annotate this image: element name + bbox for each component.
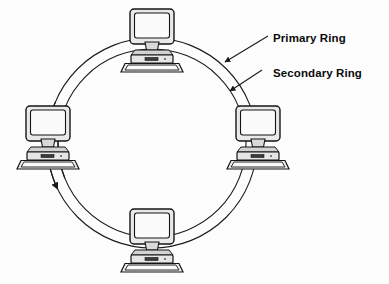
- leader-line-primary-ring: [225, 36, 268, 62]
- leader-line-secondary-ring: [230, 70, 262, 91]
- leader-group: [225, 36, 268, 91]
- primary-ring-label: Primary Ring: [273, 32, 346, 44]
- diagram-canvas: Primary Ring Secondary Ring: [0, 0, 389, 284]
- computer-icon: [227, 106, 289, 169]
- node-top[interactable]: [121, 9, 183, 72]
- computer-icon: [121, 209, 183, 272]
- node-right[interactable]: [227, 106, 289, 169]
- label-group: Primary Ring Secondary Ring: [273, 32, 362, 79]
- secondary-ring-label: Secondary Ring: [273, 67, 362, 79]
- node-left[interactable]: [17, 106, 79, 169]
- computer-icon: [17, 106, 79, 169]
- computer-icon: [121, 9, 183, 72]
- ring-network-diagram: Primary Ring Secondary Ring: [0, 0, 389, 284]
- node-bottom[interactable]: [121, 209, 183, 272]
